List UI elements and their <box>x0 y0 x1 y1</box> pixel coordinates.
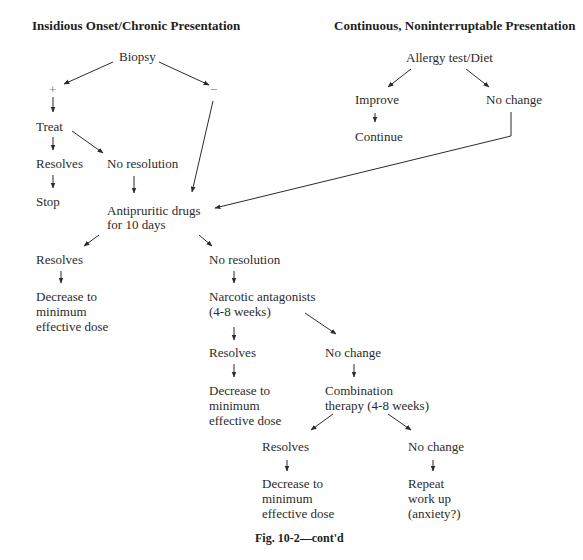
node-resolves-2: Resolves <box>36 252 83 267</box>
figure-caption: Fig. 10-2—cont'd <box>255 531 344 546</box>
node-repeat-line1: Repeat <box>408 476 444 491</box>
node-narcotic-line2: (4-8 weeks) <box>209 304 271 319</box>
node-antipruritic-line2: for 10 days <box>107 217 166 232</box>
node-continue: Continue <box>355 129 403 144</box>
node-decrease-1-line2: minimum <box>36 304 87 319</box>
node-narcotic-line1: Narcotic antagonists <box>209 289 316 304</box>
node-stop: Stop <box>36 194 60 209</box>
node-resolves-3: Resolves <box>209 345 256 360</box>
node-no-resolution-2: No resolution <box>209 252 280 267</box>
node-biopsy: Biopsy <box>119 49 156 64</box>
node-biopsy-positive: + <box>49 82 56 97</box>
node-repeat-line3: (anxiety?) <box>408 506 461 521</box>
node-decrease-2-line2: minimum <box>209 398 260 413</box>
node-biopsy-negative: − <box>210 82 217 97</box>
node-decrease-1-line3: effective dose <box>36 319 108 334</box>
node-resolves-4: Resolves <box>262 439 309 454</box>
node-decrease-3-line2: minimum <box>262 491 313 506</box>
right-section-title: Continuous, Noninterruptable Presentatio… <box>334 18 575 33</box>
node-no-change-right: No change <box>486 92 542 107</box>
node-treat: Treat <box>36 119 63 134</box>
node-no-change-1: No change <box>325 345 381 360</box>
node-resolves-1: Resolves <box>36 156 83 171</box>
node-repeat-line2: work up <box>408 491 451 506</box>
node-decrease-3-line3: effective dose <box>262 506 334 521</box>
node-decrease-1-line1: Decrease to <box>36 289 97 304</box>
node-allergy-test: Allergy test/Diet <box>406 50 493 65</box>
left-section-title: Insidious Onset/Chronic Presentation <box>32 18 240 33</box>
node-no-resolution-1: No resolution <box>107 156 178 171</box>
node-improve: Improve <box>355 92 399 107</box>
node-decrease-3-line1: Decrease to <box>262 476 323 491</box>
node-combination-line2: therapy (4-8 weeks) <box>325 398 429 413</box>
node-decrease-2-line1: Decrease to <box>209 383 270 398</box>
node-antipruritic-line1: Antipruritic drugs <box>107 203 201 218</box>
node-decrease-2-line3: effective dose <box>209 413 281 428</box>
node-combination-line1: Combination <box>325 383 393 398</box>
node-no-change-2: No change <box>408 439 464 454</box>
